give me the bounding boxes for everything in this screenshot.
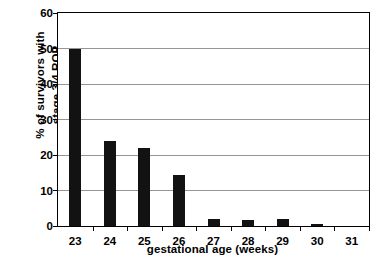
bar [69, 49, 81, 227]
y-axis-tick-label: 20 [13, 150, 53, 161]
plot-inner: 0102030405060232425262728293031 [58, 13, 369, 226]
bar [277, 219, 289, 226]
x-axis-title: gestational age (weeks) [57, 243, 368, 255]
x-axis-tick-mark [196, 226, 197, 231]
y-axis-tick-mark [53, 13, 58, 14]
x-axis-tick-mark [334, 226, 335, 231]
bar [104, 141, 116, 226]
plot-area: 0102030405060232425262728293031 [57, 12, 370, 227]
y-axis-tick-mark [53, 84, 58, 85]
bar [138, 148, 150, 226]
gridline [58, 119, 369, 120]
bar [242, 220, 254, 226]
x-axis-tick-mark [162, 226, 163, 231]
y-axis-tick-mark [53, 190, 58, 191]
y-axis-tick-label: 30 [13, 115, 53, 126]
x-axis-tick-mark [300, 226, 301, 231]
bar [173, 175, 185, 226]
x-axis-tick-mark [93, 226, 94, 231]
y-axis-tick-mark [53, 226, 58, 227]
x-axis-tick-mark [265, 226, 266, 231]
x-axis-tick-mark [231, 226, 232, 231]
y-axis-tick-label: 40 [13, 79, 53, 90]
x-axis-tick-mark [369, 226, 370, 231]
y-axis-tick-mark [53, 119, 58, 120]
gridline [58, 84, 369, 85]
y-axis-tick-label: 50 [13, 44, 53, 55]
y-axis-tick-label: 0 [13, 221, 53, 232]
bar-chart-figure: % of survivors with stage 3/4 ROP 010203… [0, 0, 374, 263]
y-axis-tick-mark [53, 48, 58, 49]
bar [208, 219, 220, 226]
y-axis-tick-label: 60 [13, 8, 53, 19]
x-axis-tick-mark [127, 226, 128, 231]
bar [311, 224, 323, 226]
y-axis-tick-mark [53, 155, 58, 156]
gridline [58, 48, 369, 49]
y-axis-tick-label: 10 [13, 186, 53, 197]
